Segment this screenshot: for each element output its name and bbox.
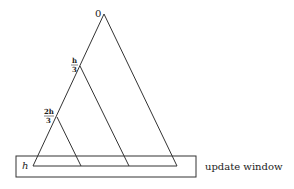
level2-label-den: 3 [46,116,51,125]
base-label: h [22,160,28,171]
update-window-label: update window [205,161,283,172]
outer-triangle [33,14,177,166]
level1-label-den: 3 [72,65,77,74]
level1-label-num: h [72,56,77,65]
level2-label-num: 2h [44,107,54,116]
inner-triangle-2h3 [57,117,81,166]
tree-window-diagram: 0 h 3 2h 3 h update window [0,0,294,189]
inner-triangle-h3 [80,66,129,166]
apex-label: 0 [95,8,101,19]
